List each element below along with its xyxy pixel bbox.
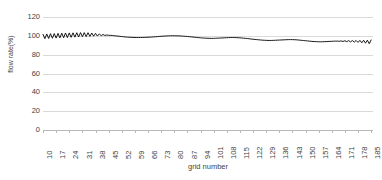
x-tick-mark <box>69 131 70 133</box>
x-tick-label: 136 <box>282 146 290 159</box>
x-tick-label: 115 <box>243 147 251 159</box>
x-tick-label: 52 <box>125 151 133 159</box>
x-tick-mark <box>332 131 333 133</box>
x-tick-mark <box>240 131 241 133</box>
series-line <box>43 33 371 44</box>
x-tick-label: 59 <box>138 151 146 159</box>
x-tick-mark <box>214 131 215 133</box>
x-tick-mark <box>371 131 372 133</box>
x-tick-label: 122 <box>256 146 264 159</box>
x-tick-mark <box>306 131 307 133</box>
x-tick-mark <box>319 131 320 133</box>
x-tick-label: 24 <box>72 151 80 159</box>
x-axis: 1017243138455259667380879410110811512212… <box>43 131 373 161</box>
x-tick-mark <box>96 131 97 133</box>
x-tick-label: 171 <box>348 146 356 159</box>
x-tick-label: 101 <box>217 146 225 159</box>
x-tick-mark <box>174 131 175 133</box>
x-tick-label: 178 <box>361 146 369 159</box>
x-tick-mark <box>122 131 123 133</box>
x-tick-mark <box>148 131 149 133</box>
x-tick-label: 108 <box>230 146 238 159</box>
x-tick-label: 150 <box>309 146 317 159</box>
x-tick-label: 31 <box>86 151 94 159</box>
x-tick-mark <box>135 131 136 133</box>
x-tick-label: 87 <box>191 151 199 159</box>
plot-area <box>43 17 373 130</box>
x-tick-mark <box>253 131 254 133</box>
x-tick-mark <box>292 131 293 133</box>
x-tick-mark <box>345 131 346 133</box>
x-tick-label: 157 <box>322 146 330 159</box>
y-tick-label: 40 <box>2 88 40 96</box>
x-tick-label: 10 <box>46 151 54 159</box>
x-tick-label: 129 <box>269 146 277 159</box>
x-tick-mark <box>187 131 188 133</box>
x-tick-mark <box>201 131 202 133</box>
x-tick-mark <box>358 131 359 133</box>
x-tick-mark <box>109 131 110 133</box>
x-tick-label: 45 <box>112 151 120 159</box>
x-tick-label: 185 <box>374 146 382 159</box>
y-tick-label: 20 <box>2 107 40 115</box>
x-tick-mark <box>161 131 162 133</box>
x-tick-mark <box>82 131 83 133</box>
x-tick-mark <box>43 131 44 133</box>
series-flow-rate <box>43 17 373 130</box>
x-tick-label: 17 <box>59 151 67 159</box>
y-tick-label: 0 <box>2 126 40 134</box>
x-tick-label: 94 <box>204 151 212 159</box>
x-tick-label: 164 <box>335 146 343 159</box>
x-tick-label: 66 <box>151 151 159 159</box>
x-tick-mark <box>56 131 57 133</box>
y-axis: 020406080100120 <box>0 0 40 180</box>
x-tick-mark <box>266 131 267 133</box>
x-axis-title: grid number <box>43 162 373 171</box>
x-tick-label: 143 <box>296 146 304 159</box>
x-tick-label: 73 <box>164 151 172 159</box>
x-tick-label: 80 <box>177 151 185 159</box>
x-tick-label: 38 <box>99 151 107 159</box>
y-axis-title: flow rate(%) <box>7 19 15 89</box>
x-tick-mark <box>279 131 280 133</box>
x-tick-mark <box>227 131 228 133</box>
